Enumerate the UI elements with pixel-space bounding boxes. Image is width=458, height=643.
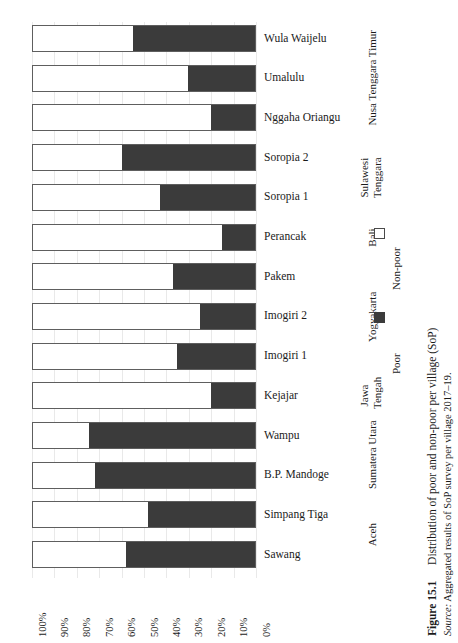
legend-swatch-non-poor bbox=[374, 228, 385, 239]
bar-segment-poor[interactable] bbox=[133, 26, 255, 51]
village-label: Sawang bbox=[264, 549, 300, 561]
legend-swatch-poor bbox=[374, 312, 385, 323]
bar-row[interactable] bbox=[32, 541, 256, 568]
x-axis-tick: 50% bbox=[149, 618, 160, 637]
figure-caption-text: Distribution of poor and non-poor per vi… bbox=[426, 328, 438, 565]
figure-caption: Figure 15.1 Distribution of poor and non… bbox=[426, 328, 438, 636]
bar-segment-poor[interactable] bbox=[95, 463, 255, 488]
village-label: Perancak bbox=[264, 231, 306, 243]
x-axis-tick: 20% bbox=[216, 618, 227, 637]
village-label: Wampu bbox=[264, 430, 299, 442]
village-label: Imogiri 2 bbox=[264, 310, 307, 322]
bar-segment-poor[interactable] bbox=[200, 304, 256, 329]
bar-segment-poor[interactable] bbox=[177, 344, 255, 369]
bar-segment-poor[interactable] bbox=[188, 66, 255, 91]
source-text: Aggregated results of SoP survey per vil… bbox=[442, 372, 453, 601]
x-axis-tick: 70% bbox=[104, 618, 115, 637]
village-label: Umalulu bbox=[264, 72, 304, 84]
village-label: Soropia 2 bbox=[264, 152, 308, 164]
source-label: Source: bbox=[442, 604, 453, 636]
bar-segment-poor[interactable] bbox=[148, 502, 255, 527]
x-axis-tick: 10% bbox=[238, 618, 249, 637]
bar-segment-poor[interactable] bbox=[173, 264, 255, 289]
village-label: Kejajar bbox=[264, 390, 298, 402]
bar-row[interactable] bbox=[32, 303, 256, 330]
x-axis-tick: 90% bbox=[59, 618, 70, 637]
province-label: Jawa Tengah bbox=[358, 382, 385, 409]
legend-label: Non-poor bbox=[390, 247, 402, 290]
village-label: Pakem bbox=[264, 271, 295, 283]
bar-segment-poor[interactable] bbox=[126, 542, 255, 567]
bar-segment-poor[interactable] bbox=[89, 423, 256, 448]
bar-row[interactable] bbox=[32, 501, 256, 528]
figure-source: Source: Aggregated results of SoP survey… bbox=[442, 372, 453, 636]
village-label: Simpang Tiga bbox=[264, 509, 328, 521]
bar-segment-poor[interactable] bbox=[222, 225, 255, 250]
bar-row[interactable] bbox=[32, 382, 256, 409]
bar-segment-poor[interactable] bbox=[211, 383, 255, 408]
figure-caption-block: Figure 15.1 Distribution of poor and non… bbox=[410, 0, 458, 643]
x-axis-tick: 40% bbox=[171, 618, 182, 637]
village-label: Wula Waijelu bbox=[264, 33, 327, 45]
bar-row[interactable] bbox=[32, 184, 256, 211]
village-label: B.P. Mandoge bbox=[264, 469, 329, 481]
bar-row[interactable] bbox=[32, 224, 256, 251]
bar-row[interactable] bbox=[32, 422, 256, 449]
plot-area bbox=[32, 22, 256, 578]
bar-segment-poor[interactable] bbox=[122, 145, 255, 170]
figure-number: Figure 15.1 bbox=[426, 581, 438, 636]
x-axis-tick: 60% bbox=[126, 618, 137, 637]
bar-segment-poor[interactable] bbox=[160, 185, 255, 210]
figure-root: Wula WaijeluUmaluluNggaha OrianguSoropia… bbox=[0, 0, 458, 643]
x-axis-tick: 80% bbox=[81, 618, 92, 637]
bar-row[interactable] bbox=[32, 65, 256, 92]
bar-row[interactable] bbox=[32, 343, 256, 370]
village-label: Nggaha Oriangu bbox=[264, 112, 340, 124]
legend-label: Poor bbox=[390, 353, 402, 374]
bar-row[interactable] bbox=[32, 462, 256, 489]
village-label: Soropia 1 bbox=[264, 191, 308, 203]
bar-row[interactable] bbox=[32, 104, 256, 131]
chart-legend: Non-poorPoor bbox=[372, 228, 398, 368]
bar-row[interactable] bbox=[32, 263, 256, 290]
gridline-0pct bbox=[256, 22, 257, 578]
village-label: Imogiri 1 bbox=[264, 350, 307, 362]
bar-row[interactable] bbox=[32, 144, 256, 171]
x-axis-tick: 100% bbox=[37, 613, 48, 638]
x-axis-tick: 30% bbox=[193, 618, 204, 637]
bar-segment-poor[interactable] bbox=[211, 105, 255, 130]
x-axis-tick: 0% bbox=[261, 623, 272, 637]
bar-row[interactable] bbox=[32, 25, 256, 52]
